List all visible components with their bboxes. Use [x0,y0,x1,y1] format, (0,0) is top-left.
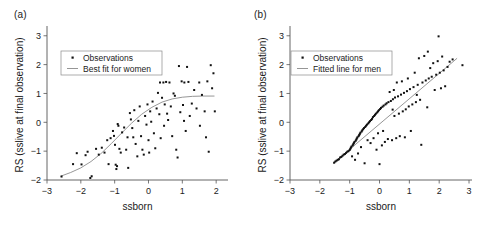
x-tick-label: −2 [76,186,86,196]
observation-point [415,101,417,103]
observation-point [392,98,394,100]
observation-point [168,82,170,84]
observation-point [426,106,428,108]
y-tick-label: 2 [279,60,284,70]
observation-point [159,82,161,84]
y-tick-label: −2 [274,175,284,185]
observation-point [183,82,185,84]
observation-point [360,146,362,148]
y-tick-label: −2 [31,175,41,185]
observation-point [196,107,198,109]
observation-point [175,149,177,151]
observation-point [143,154,145,156]
observation-point [149,110,151,112]
observation-point [437,60,439,62]
observation-point [85,154,87,156]
observation-point [394,97,396,99]
observation-point [406,90,408,92]
observation-point [76,152,78,154]
observation-point [382,130,384,132]
observation-point [185,130,187,132]
x-tick-label: 3 [467,186,472,196]
observation-point [125,149,127,151]
observation-point [72,163,74,165]
observation-point [131,127,133,129]
observation-point [136,155,138,157]
legend-marker-observations [302,57,304,59]
observation-point [170,105,172,107]
observation-point [117,123,119,125]
observation-point [373,137,375,139]
observation-point [409,88,411,90]
observation-point [87,151,89,153]
observation-point [137,120,139,122]
observation-point [139,105,141,107]
x-tick-label: −3 [42,186,52,196]
observation-point [428,77,430,79]
observation-point [108,163,110,165]
observation-point [367,139,369,141]
panel-b-men: (b) −2−10123−3−2−10123ssbornRS (sslive a… [240,0,479,225]
observation-point [150,121,152,123]
observation-point [130,118,132,120]
observation-point [110,137,112,139]
observation-point [187,81,189,83]
observation-point [421,82,423,84]
observation-point [441,56,443,58]
observation-point [165,81,167,83]
observation-point [186,66,188,68]
observation-point [98,154,100,156]
legend-label-observations: Observations [313,53,363,63]
observation-point [211,87,213,89]
observation-point [407,77,409,79]
y-tick-label: 3 [36,31,41,41]
fit-line [61,96,215,176]
observation-point [189,115,191,117]
observation-point [81,163,83,165]
observation-point [397,95,399,97]
observation-point [434,89,436,91]
observation-point [166,113,168,115]
observation-point [377,132,379,134]
observation-point [120,152,122,154]
observation-point [178,65,180,67]
observation-point [91,175,93,177]
observation-point [171,135,173,137]
observation-point [419,99,421,101]
observation-point [115,168,117,170]
x-tick-label: −1 [345,186,355,196]
observation-point [163,125,165,127]
observation-point [440,87,442,89]
observation-point [113,135,115,137]
observation-point [444,85,446,87]
x-axis-title: ssborn [366,201,396,212]
observation-point [386,102,388,104]
y-axis-title: RS (sslive at final observation) [14,37,25,172]
observation-point [438,35,440,37]
observation-point [383,105,385,107]
observation-point [152,101,154,103]
observation-point [411,103,413,105]
observation-point [182,104,184,106]
observation-point [439,72,441,74]
observation-point [95,148,97,150]
observation-point [338,158,340,160]
observation-point [157,92,159,94]
observation-point [398,113,400,115]
observation-point [408,105,410,107]
x-tick-label: 2 [437,186,442,196]
observation-point [183,120,185,122]
observation-point [364,162,366,164]
observation-point [402,110,404,112]
observation-point [420,144,422,146]
x-tick-label: 1 [407,186,412,196]
panel-a-women: (a) −2−10123−3−2−1012ssbornRS (sslive at… [0,0,239,225]
observation-point [164,103,166,105]
figure-scatter-panels: (a) −2−10123−3−2−1012ssbornRS (sslive at… [0,0,479,225]
observation-point [435,74,437,76]
observation-point [129,112,131,114]
observation-point [401,80,403,82]
observation-point [118,148,120,150]
observation-point [400,94,402,96]
x-axis-title: ssborn [122,201,152,212]
